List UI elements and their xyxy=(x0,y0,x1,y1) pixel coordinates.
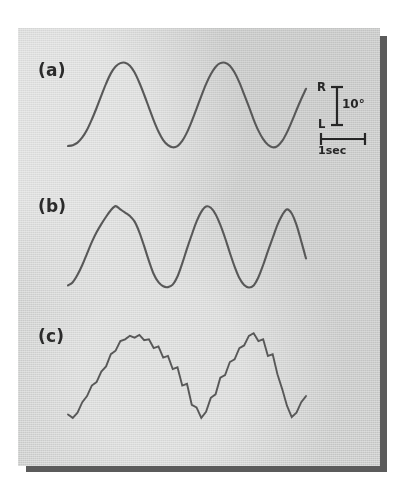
trace-plot-c xyxy=(62,322,312,430)
figure-root: (a) (b) (c) R L 10° 1sec xyxy=(0,0,400,500)
trace-line-a xyxy=(68,62,306,147)
scale-label-time: 1sec xyxy=(318,144,346,157)
panel-label-c: (c) xyxy=(38,326,64,346)
scale-label-left: L xyxy=(318,117,325,131)
trace-plot-b xyxy=(62,196,312,298)
trace-plot-a xyxy=(62,52,312,158)
trace-line-b xyxy=(68,206,306,287)
calibration-scale-bars: R L 10° 1sec xyxy=(316,82,378,160)
trace-line-c xyxy=(68,333,306,418)
scale-label-amplitude: 10° xyxy=(342,97,365,111)
scale-label-right: R xyxy=(317,80,326,94)
